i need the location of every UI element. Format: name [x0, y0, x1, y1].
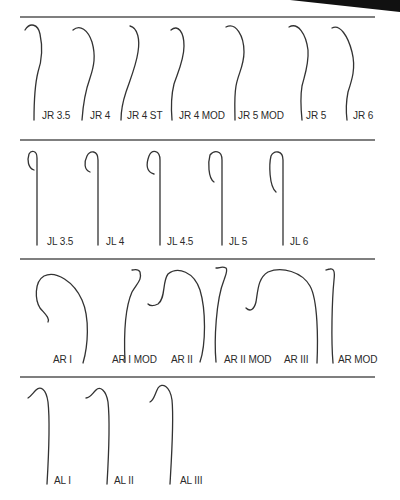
catheter-ar-i-mod: [125, 270, 141, 363]
catheter-jl-3-5: [28, 151, 37, 245]
catheter-al-i: [28, 388, 49, 484]
catheter-ar-i: [36, 274, 87, 363]
label-ar-iii: AR III: [284, 354, 308, 365]
label-ar-i-mod: AR I MOD: [112, 354, 157, 365]
row-dividers: [20, 17, 375, 377]
catheter-jr-4-mod: [171, 28, 184, 120]
catheter-jr-4-st: [121, 26, 139, 120]
catheter-ar-ii: [148, 271, 205, 362]
catheter-jr-5: [289, 26, 308, 120]
catheter-jl-5: [209, 152, 222, 245]
label-jl-4: JL 4: [106, 236, 124, 247]
label-jr-4-st: JR 4 ST: [127, 110, 162, 121]
catheter-al-ii: [86, 389, 109, 485]
catheter-al-iii: [150, 385, 173, 484]
label-ar-i: AR I: [53, 354, 72, 365]
label-ar-ii-mod: AR II MOD: [224, 354, 271, 365]
catheter-jl-4-5: [147, 151, 160, 245]
catheter-ar-iii: [246, 270, 317, 363]
label-jr-3-5: JR 3.5: [42, 110, 70, 121]
catheter-jr-6: [332, 27, 354, 120]
label-al-iii: AL III: [180, 475, 202, 486]
label-jr-6: JR 6: [353, 110, 373, 121]
label-jr-4-mod: JR 4 MOD: [179, 110, 225, 121]
label-jr-4: JR 4: [90, 110, 110, 121]
label-al-i: AL I: [54, 475, 71, 486]
catheter-jl-4: [85, 152, 98, 245]
catheter-jr-3-5: [25, 25, 42, 120]
catheter-ar-mod: [326, 269, 334, 363]
label-ar-ii: AR II: [171, 354, 193, 365]
catheter-ar-ii-mod: [215, 267, 227, 362]
label-al-ii: AL II: [114, 475, 134, 486]
catheter-jr-4: [73, 28, 94, 120]
label-jr-5-mod: JR 5 MOD: [238, 110, 284, 121]
catheter-diagram: [0, 0, 400, 500]
label-jr-5: JR 5: [306, 110, 326, 121]
label-jl-4-5: JL 4.5: [167, 236, 193, 247]
label-jl-6: JL 6: [290, 236, 308, 247]
catheter-jr-5-mod: [226, 26, 244, 120]
label-jl-3-5: JL 3.5: [47, 236, 73, 247]
catheter-jl-6: [270, 152, 283, 245]
label-ar-mod: AR MOD: [338, 354, 377, 365]
label-jl-5: JL 5: [229, 236, 247, 247]
